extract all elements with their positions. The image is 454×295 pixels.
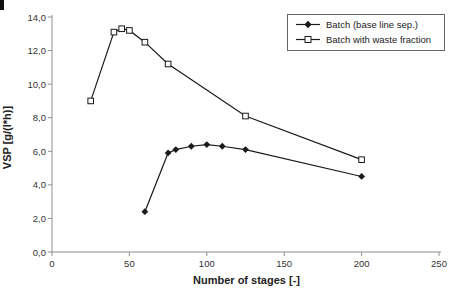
data-point-diamond (165, 150, 172, 157)
x-tick-label: 150 (276, 258, 292, 269)
data-point-square (88, 98, 94, 104)
legend: Batch (base line sep.) Batch with waste … (287, 14, 445, 51)
x-tick-label: 100 (199, 258, 215, 269)
legend-item-batch-waste-fraction: Batch with waste fraction (288, 32, 444, 47)
chart-canvas: 0,02,04,06,08,010,012,014,00501001502002… (0, 0, 454, 295)
data-point-diamond (141, 208, 148, 215)
y-tick-label: 2,0 (33, 213, 46, 224)
data-point-square (119, 26, 125, 32)
series-line (145, 145, 362, 212)
series-batch-base-line (141, 141, 365, 215)
x-tick-label: 50 (124, 258, 135, 269)
open-square-marker-icon (295, 35, 321, 44)
data-point-diamond (219, 143, 226, 150)
y-tick-label: 0,0 (33, 247, 46, 258)
data-point-diamond (203, 141, 210, 148)
y-tick-label: 4,0 (33, 179, 46, 190)
data-point-diamond (188, 143, 195, 150)
x-tick-label: 250 (431, 258, 447, 269)
data-point-diamond (358, 173, 365, 180)
y-tick-label: 8,0 (33, 112, 46, 123)
y-tick-label: 12,0 (28, 45, 47, 56)
legend-label: Batch with waste fraction (326, 34, 431, 45)
data-point-diamond (172, 146, 179, 153)
y-tick-label: 6,0 (33, 146, 46, 157)
data-point-diamond (242, 146, 249, 153)
y-tick-label: 10,0 (28, 79, 47, 90)
data-point-square (359, 157, 365, 163)
y-tick-label: 14,0 (28, 12, 47, 23)
data-point-square (243, 113, 249, 119)
x-tick-label: 0 (49, 258, 54, 269)
x-axis-title: Number of stages [-] (52, 274, 441, 286)
legend-label: Batch (base line sep.) (326, 19, 418, 30)
y-axis-title: VSP [g/(l*h)] (1, 58, 16, 218)
legend-item-batch-base-line: Batch (base line sep.) (288, 17, 444, 32)
data-point-square (111, 29, 117, 35)
data-point-square (165, 61, 171, 67)
filled-diamond-marker-icon (295, 20, 321, 29)
x-tick-label: 200 (354, 258, 370, 269)
data-point-square (127, 28, 133, 34)
data-point-square (142, 39, 148, 45)
